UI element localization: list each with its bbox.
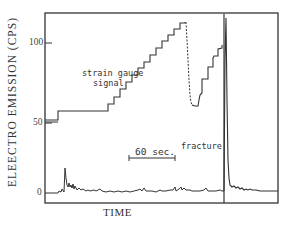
annotation-signal: signal	[93, 78, 124, 88]
x-axis-label: TIME	[103, 206, 132, 218]
y-axis-label: ELEECTRO EMISSION (CPS)	[4, 12, 20, 192]
strain-gauge-dashed	[186, 22, 192, 105]
annotation-fracture: fracture	[181, 141, 222, 151]
fracture-spike	[224, 18, 278, 191]
annotation-strain-gauge: strain gauge	[82, 68, 143, 78]
annotation-60-sec: 60 sec.	[135, 147, 175, 157]
ytick-label-100: 100	[29, 37, 43, 47]
chart: ELEECTRO EMISSION (CPS) 100 50 0 TIME st…	[0, 0, 292, 230]
emission-trace	[45, 168, 224, 193]
ytick-label-50: 50	[33, 117, 43, 127]
chart-plot	[0, 0, 292, 230]
ytick-label-0: 0	[37, 187, 42, 197]
